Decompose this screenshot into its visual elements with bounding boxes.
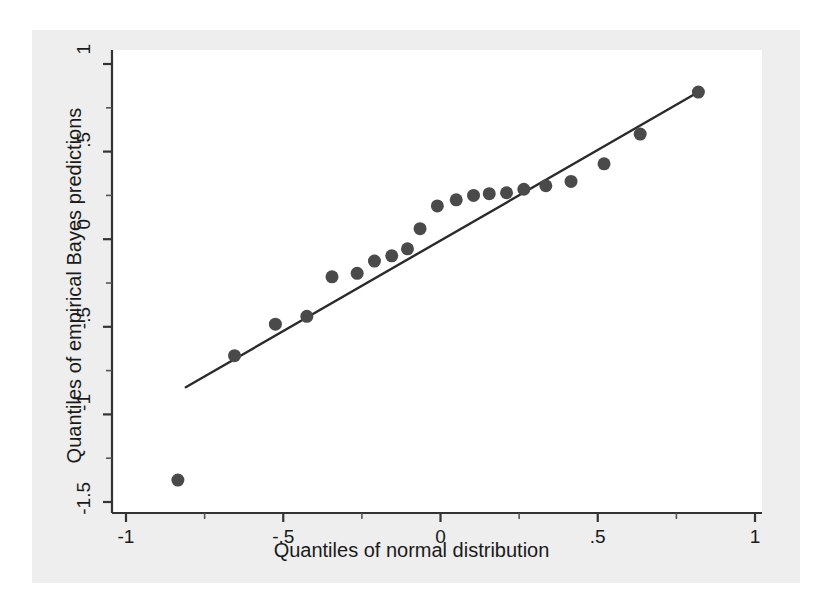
chart-figure: 1.50-.5-1-1.5-1-.50.51 Quantiles of norm… (0, 0, 823, 612)
x-axis-title: Quantiles of normal distribution (0, 539, 823, 562)
plot-interior (112, 50, 762, 513)
y-axis-title: Quantiles of empirical Bayes predictions (63, 26, 86, 546)
